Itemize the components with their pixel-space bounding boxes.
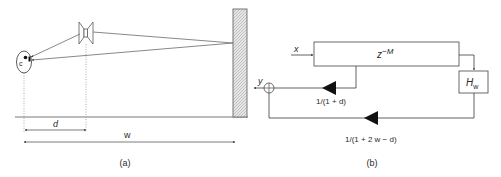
reflected-sound-path bbox=[32, 43, 233, 60]
speaker-to-wall-path bbox=[93, 32, 233, 43]
caption-b: (b) bbox=[367, 158, 378, 168]
hatched-wall-icon bbox=[233, 9, 247, 117]
dimension-d-label: d bbox=[53, 119, 59, 129]
figure-canvas: c d w (a) x z−M bbox=[0, 0, 501, 177]
direct-gain-triangle-icon bbox=[322, 81, 336, 95]
direct-path-line bbox=[274, 66, 356, 88]
reflected-gain-triangle-icon bbox=[364, 111, 378, 125]
output-y-label: y bbox=[257, 76, 263, 86]
direct-sound-path bbox=[31, 34, 80, 57]
summing-junction-icon bbox=[264, 83, 274, 93]
reflected-gain-label: 1/(1 + 2 w − d) bbox=[345, 135, 397, 144]
panel-a: c d w (a) bbox=[15, 9, 248, 168]
direct-gain-label: 1/(1 + d) bbox=[316, 97, 346, 106]
input-x-label: x bbox=[293, 44, 299, 54]
dimension-w-label: w bbox=[123, 130, 131, 140]
panel-b: x z−M Hw 1/(1 + d) 1/(1 + 2 w − d) y bbox=[254, 42, 488, 168]
caption-a: (a) bbox=[120, 158, 131, 168]
listener-label: c bbox=[19, 60, 23, 67]
loudspeaker-icon bbox=[79, 22, 93, 44]
delay-to-filter-line bbox=[459, 55, 474, 70]
